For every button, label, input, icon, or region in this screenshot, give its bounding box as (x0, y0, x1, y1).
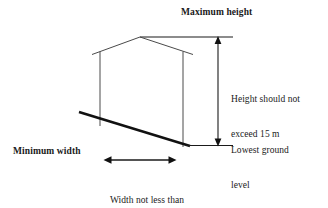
height-restriction-note-line1: Height should not (231, 94, 300, 106)
roof-left-slope (92, 37, 140, 55)
width-dimension-arrow-right-icon (169, 156, 177, 163)
lowest-ground-level-note-line2: level (231, 180, 289, 192)
maximum-height-label: Maximum height (181, 7, 252, 19)
lowest-ground-level-note: Lowest ground level (231, 122, 289, 208)
width-dimension-arrow-left-icon (104, 156, 112, 163)
sloping-ground-line (79, 112, 190, 146)
width-restriction-note: Width not less than half the height (88, 172, 206, 208)
minimum-width-label: Minimum width (13, 146, 81, 158)
width-restriction-note-line1: Width not less than (88, 195, 206, 207)
roof-right-slope (140, 37, 193, 55)
lowest-ground-level-note-line1: Lowest ground (231, 145, 289, 157)
diagram-canvas: Maximum height Minimum width Height shou… (0, 0, 328, 208)
